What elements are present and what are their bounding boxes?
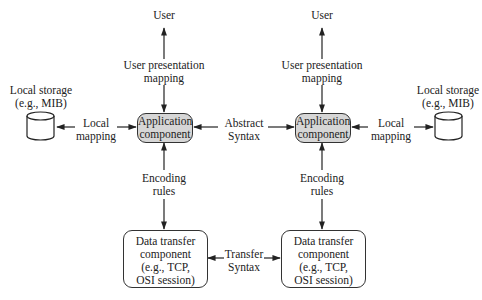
label-line: Data transfer [282, 235, 365, 248]
label-line: component [138, 128, 192, 141]
label-line: User presentation [282, 59, 363, 72]
label-line: Application [296, 115, 350, 128]
label-line: OSI session) [282, 274, 365, 287]
right-data-transfer-component: Data transfer component (e.g., TCP, OSI … [281, 230, 366, 288]
label-line: mapping [282, 72, 363, 85]
left-encoding-rules-label: Encoding rules [142, 172, 186, 198]
label-line: User presentation [124, 59, 205, 72]
label-line: Encoding [142, 172, 186, 185]
label-line: mapping [124, 72, 205, 85]
left-storage-cylinder-icon [27, 112, 54, 140]
right-application-component: Application component [295, 113, 351, 143]
label-line: Local [371, 117, 411, 130]
left-presentation-mapping-label: User presentation mapping [124, 59, 205, 85]
label-line: component [124, 248, 207, 261]
left-data-transfer-component: Data transfer component (e.g., TCP, OSI … [123, 230, 208, 288]
label-line: Syntax [225, 130, 264, 143]
left-user-label: User [153, 9, 175, 22]
left-application-component: Application component [137, 113, 193, 143]
label-line: component [282, 248, 365, 261]
right-storage-cylinder-icon [435, 112, 462, 140]
label-line: Data transfer [124, 235, 207, 248]
label-line: Local storage [10, 84, 72, 97]
label-line: OSI session) [124, 274, 207, 287]
label-line: (e.g., TCP, [282, 261, 365, 274]
label-line: rules [300, 185, 344, 198]
right-encoding-rules-label: Encoding rules [300, 172, 344, 198]
right-storage-label: Local storage (e.g., MIB) [417, 84, 479, 110]
label-line: Encoding [300, 172, 344, 185]
label-line: component [296, 128, 350, 141]
label-line: Application [138, 115, 192, 128]
label-line: (e.g., MIB) [417, 97, 479, 110]
right-local-mapping-label: Local mapping [371, 117, 411, 143]
label-line: (e.g., TCP, [124, 261, 207, 274]
label-line: (e.g., MIB) [10, 97, 72, 110]
label-line: rules [142, 185, 186, 198]
label-line: Abstract [225, 117, 264, 130]
label-line: mapping [371, 130, 411, 143]
label-line: Local storage [417, 84, 479, 97]
right-user-label: User [311, 9, 333, 22]
label-line: mapping [76, 130, 116, 143]
transfer-syntax-label: Transfer Syntax [225, 248, 264, 274]
label-line: Transfer [225, 248, 264, 261]
label-line: Syntax [225, 261, 264, 274]
left-local-mapping-label: Local mapping [76, 117, 116, 143]
label-line: Local [76, 117, 116, 130]
left-storage-label: Local storage (e.g., MIB) [10, 84, 72, 110]
abstract-syntax-label: Abstract Syntax [225, 117, 264, 143]
right-presentation-mapping-label: User presentation mapping [282, 59, 363, 85]
